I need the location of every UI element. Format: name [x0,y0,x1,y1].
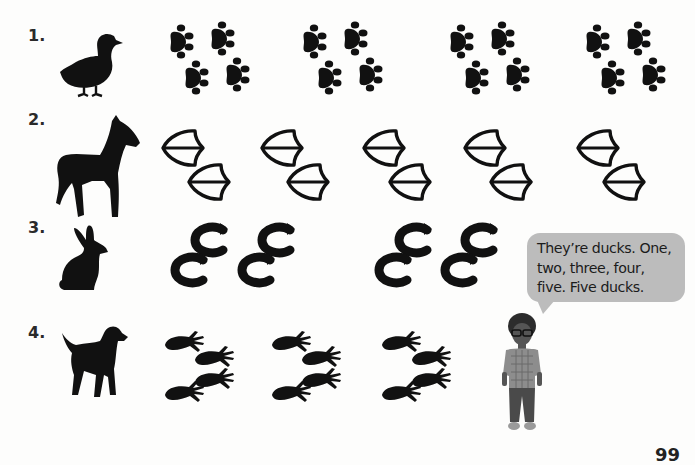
boy-character-icon [497,312,547,435]
paw-track-group-3 [447,28,537,98]
hoof-track-group-4 [441,226,503,294]
paw-track-group-2 [300,28,390,98]
row-3-number: 3. [28,218,45,237]
hoof-track-group-3 [375,226,437,294]
paw-track-group-4 [583,28,673,98]
bird-track-group-5 [578,130,648,202]
dog-icon [60,325,135,400]
hand-track-group-2 [270,325,345,405]
bird-track-group-2 [262,130,332,202]
bird-track-group-3 [364,130,434,202]
hoof-track-group-2 [238,226,300,294]
rabbit-icon [58,224,114,292]
speech-line-2: two, three, four, [537,259,677,279]
row-2-number: 2. [28,110,45,129]
speech-bubble: They’re ducks. One, two, three, four, fi… [527,233,685,302]
duck-icon [58,32,123,98]
row-1-number: 1. [28,26,45,45]
paw-track-group-1 [167,28,257,98]
page-number: 99 [655,444,680,465]
bird-track-group-4 [465,130,535,202]
bird-track-group-1 [163,130,233,202]
speech-line-1: They’re ducks. One, [537,239,677,259]
hoof-track-group-1 [171,226,233,294]
hand-track-group-3 [380,325,455,405]
speech-line-3: five. Five ducks. [537,278,677,298]
row-4-number: 4. [28,323,45,342]
hand-track-group-1 [163,325,238,405]
horse-icon [48,113,142,218]
